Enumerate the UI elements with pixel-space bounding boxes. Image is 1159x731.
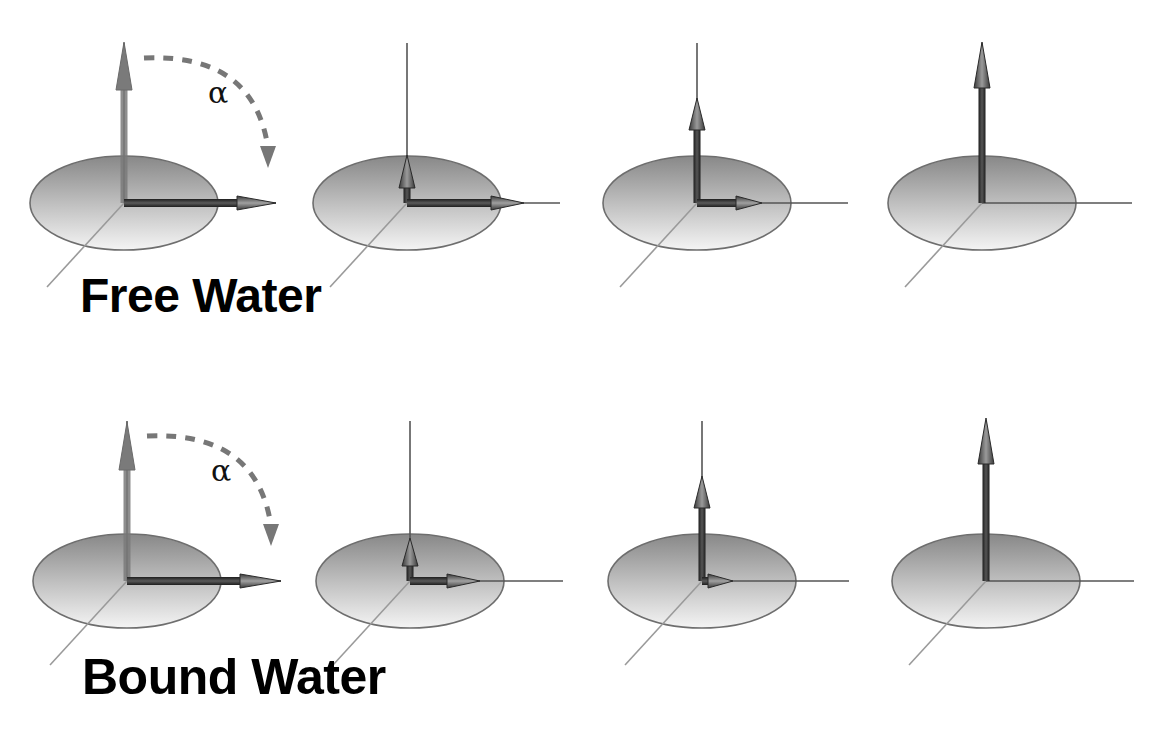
mz-arrow-head-icon [689, 98, 705, 130]
panel-free-1: α [30, 42, 276, 287]
flip-angle-alpha-label: α [211, 453, 231, 488]
magnetization-diagram: αα [0, 0, 1159, 731]
flip-angle-arrowhead-icon [260, 146, 276, 168]
panel-free-3 [603, 43, 848, 287]
flip-angle-alpha-label: α [208, 75, 228, 110]
mz-arrow-head-icon [694, 476, 710, 508]
mz-arrow-head-icon [974, 42, 990, 88]
mz-arrow-head-icon [116, 42, 132, 90]
mxy-arrow-shaft [410, 577, 447, 585]
panel-bound-1: α [33, 421, 281, 665]
mz-arrow-shaft [699, 507, 706, 581]
flip-angle-arc [147, 436, 271, 526]
mxy-arrow-head-icon [237, 196, 276, 210]
panel-bound-2 [316, 421, 563, 665]
mz-arrow-shaft [979, 87, 986, 203]
bound-water-label: Bound Water [82, 648, 386, 706]
mxy-arrow-shaft [124, 199, 237, 207]
mxy-arrow-shaft [697, 199, 736, 207]
panel-free-2 [313, 43, 560, 287]
mxy-arrow-head-icon [491, 196, 524, 210]
panel-bound-4 [892, 418, 1134, 665]
mz-arrow-shaft [983, 463, 990, 581]
mxy-arrow-shaft [702, 577, 708, 585]
panel-bound-3 [608, 421, 849, 665]
mz-arrow-shaft [124, 469, 131, 581]
mz-arrow-head-icon [119, 422, 135, 470]
mxy-arrow-shaft [407, 199, 491, 207]
mz-arrow-shaft [694, 129, 701, 203]
free-water-label: Free Water [80, 268, 321, 323]
flip-angle-arc [144, 58, 268, 148]
mxy-arrow-shaft [127, 577, 240, 585]
panel-free-4 [888, 42, 1132, 287]
mxy-arrow-head-icon [240, 574, 281, 588]
mz-arrow-head-icon [978, 418, 994, 464]
mz-arrow-shaft [121, 89, 128, 203]
flip-angle-arrowhead-icon [263, 524, 279, 546]
